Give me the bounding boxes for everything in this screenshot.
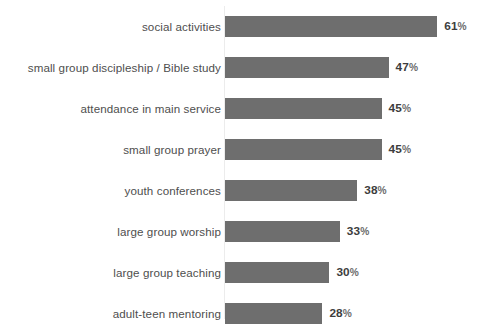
chart-plot-area: social activities61%small group disciple… bbox=[0, 0, 482, 325]
percent-sign: % bbox=[458, 21, 467, 32]
percent-sign: % bbox=[343, 308, 352, 319]
bar-value-label: 30% bbox=[336, 262, 359, 283]
bar-value-label: 47% bbox=[396, 57, 419, 78]
bar-row: large group teaching30% bbox=[0, 262, 482, 283]
bar-row: social activities61% bbox=[0, 16, 482, 37]
category-label: social activities bbox=[142, 16, 221, 37]
bar bbox=[225, 16, 437, 37]
percent-sign: % bbox=[350, 267, 359, 278]
bar bbox=[225, 98, 382, 119]
bar-row: large group worship33% bbox=[0, 221, 482, 242]
category-label: small group prayer bbox=[123, 139, 221, 160]
category-label: attendance in main service bbox=[80, 98, 221, 119]
bar bbox=[225, 262, 329, 283]
bar-value-number: 38 bbox=[364, 183, 377, 197]
bar-value-number: 28 bbox=[329, 306, 342, 320]
bar bbox=[225, 180, 357, 201]
bar-row: small group prayer45% bbox=[0, 139, 482, 160]
percent-sign: % bbox=[409, 62, 418, 73]
percent-sign: % bbox=[360, 226, 369, 237]
bar-row: youth conferences38% bbox=[0, 180, 482, 201]
category-label: adult-teen mentoring bbox=[113, 303, 221, 324]
bar-value-label: 45% bbox=[389, 98, 412, 119]
bar-value-number: 47 bbox=[396, 60, 409, 74]
percent-sign: % bbox=[378, 185, 387, 196]
category-label: small group discipleship / Bible study bbox=[28, 57, 221, 78]
bar-value-label: 61% bbox=[444, 16, 467, 37]
bar-value-number: 45 bbox=[389, 142, 402, 156]
bar-value-number: 33 bbox=[347, 224, 360, 238]
bar bbox=[225, 57, 389, 78]
category-label: youth conferences bbox=[125, 180, 221, 201]
bar-row: attendance in main service45% bbox=[0, 98, 482, 119]
bar-value-number: 61 bbox=[444, 19, 457, 33]
percent-sign: % bbox=[402, 103, 411, 114]
category-label: large group teaching bbox=[113, 262, 221, 283]
bar-value-label: 38% bbox=[364, 180, 387, 201]
bar-value-label: 45% bbox=[389, 139, 412, 160]
bar bbox=[225, 221, 340, 242]
bar-row: adult-teen mentoring28% bbox=[0, 303, 482, 324]
category-label: large group worship bbox=[117, 221, 221, 242]
bar-value-number: 30 bbox=[336, 265, 349, 279]
bar-row: small group discipleship / Bible study47… bbox=[0, 57, 482, 78]
bar bbox=[225, 303, 322, 324]
bar-value-number: 45 bbox=[389, 101, 402, 115]
bar-value-label: 28% bbox=[329, 303, 352, 324]
bar bbox=[225, 139, 382, 160]
bar-value-label: 33% bbox=[347, 221, 370, 242]
percent-sign: % bbox=[402, 144, 411, 155]
bar-chart: social activities61%small group disciple… bbox=[0, 0, 482, 325]
